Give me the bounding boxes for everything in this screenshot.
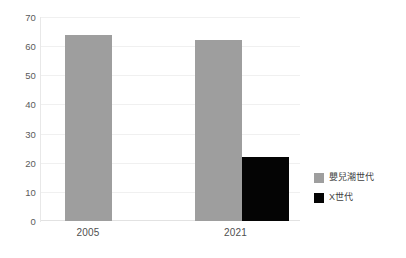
plot-area xyxy=(41,17,300,221)
legend-item-boomers: 嬰兒潮世代 xyxy=(314,172,402,183)
x-tick-label-2005: 2005 xyxy=(41,228,135,238)
bar-2005-boomers xyxy=(65,35,112,222)
x-tick-label-2021: 2021 xyxy=(171,228,300,238)
legend-item-genx: X世代 xyxy=(314,192,402,203)
gridline-70 xyxy=(41,17,300,18)
bar-2021-genx xyxy=(242,157,289,221)
y-tick-label-20: 20 xyxy=(6,159,36,169)
y-axis-tick-labels: 70 60 50 40 30 20 10 0 xyxy=(0,17,36,221)
y-tick-label-70: 70 xyxy=(6,13,36,23)
y-tick-label-40: 40 xyxy=(6,100,36,110)
y-tick-label-60: 60 xyxy=(6,42,36,52)
legend: 嬰兒潮世代 X世代 xyxy=(314,172,402,212)
legend-label-genx: X世代 xyxy=(329,192,353,203)
y-tick-label-0: 0 xyxy=(6,217,36,227)
bar-2021-boomers xyxy=(195,40,242,221)
bar-chart: 70 60 50 40 30 20 10 0 2005 2021 嬰兒潮世代 xyxy=(0,0,406,258)
legend-label-boomers: 嬰兒潮世代 xyxy=(329,172,374,183)
legend-swatch-genx xyxy=(314,193,324,203)
y-tick-label-30: 30 xyxy=(6,130,36,140)
y-tick-label-50: 50 xyxy=(6,71,36,81)
y-tick-label-10: 10 xyxy=(6,188,36,198)
legend-swatch-boomers xyxy=(314,173,324,183)
